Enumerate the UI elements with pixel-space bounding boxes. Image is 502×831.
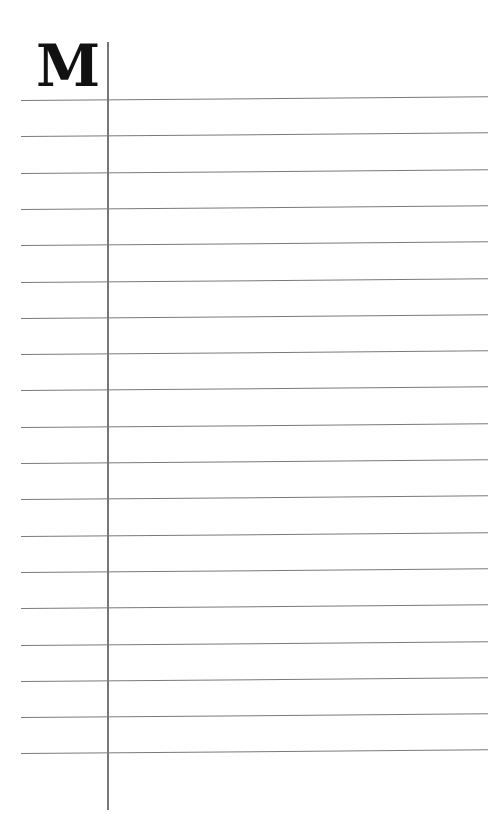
ruled-line [21, 350, 488, 355]
ruled-line [21, 532, 488, 537]
ruled-line [21, 314, 488, 319]
ruled-line [21, 750, 488, 755]
ruled-line [21, 278, 488, 283]
ruled-line [21, 133, 488, 138]
ruled-line [21, 205, 488, 210]
ruled-line [21, 605, 488, 610]
ruled-line [21, 568, 488, 573]
notebook-page: M [0, 0, 502, 831]
ruled-line [21, 242, 488, 247]
ruled-line [21, 423, 488, 428]
ruled-line [21, 496, 488, 501]
ruled-line [21, 459, 488, 464]
ruled-line [21, 169, 488, 174]
ruled-line [21, 387, 488, 392]
ruled-line [21, 641, 488, 646]
ruled-line [21, 713, 488, 718]
ruled-line [21, 677, 488, 682]
decorative-initial-letter: M [36, 34, 98, 98]
